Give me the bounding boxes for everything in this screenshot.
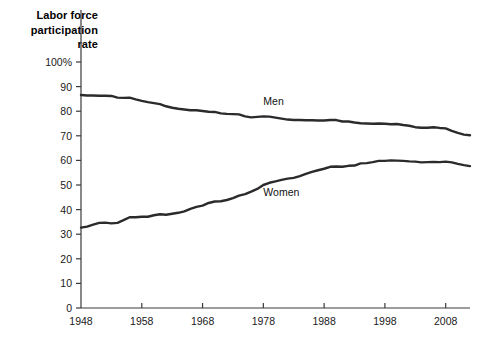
chart-figure: Labor force participation rate 010203040… xyxy=(0,0,489,348)
x-axis-tick-label: 1968 xyxy=(173,316,233,326)
series-label-women: Women xyxy=(263,186,299,198)
x-axis-tick-label: 1988 xyxy=(294,316,354,326)
y-axis-tick-label: 90 xyxy=(28,82,72,92)
x-axis-tick-label: 1978 xyxy=(233,316,293,326)
y-axis-tick-label: 50 xyxy=(28,180,72,190)
x-axis-tick-label: 1948 xyxy=(51,316,111,326)
x-axis-tick-label: 1958 xyxy=(112,316,172,326)
chart-series-group xyxy=(81,95,470,228)
x-axis-tick-label: 1998 xyxy=(355,316,415,326)
y-axis-tick-label: 10 xyxy=(28,278,72,288)
x-axis-tick-label: 2008 xyxy=(416,316,476,326)
chart-canvas xyxy=(0,0,489,348)
y-axis-ticks xyxy=(76,62,81,308)
y-axis-tick-label: 40 xyxy=(28,205,72,215)
chart-axes xyxy=(81,10,470,308)
y-axis-tick-label: 80 xyxy=(28,106,72,116)
y-axis-tick-label: 0 xyxy=(28,303,72,313)
y-axis-tick-label: 70 xyxy=(28,131,72,141)
y-axis-tick-label: 30 xyxy=(28,229,72,239)
y-axis-tick-label: 60 xyxy=(28,155,72,165)
series-label-men: Men xyxy=(263,95,283,107)
y-axis-tick-label: 100% xyxy=(28,57,72,67)
x-axis-ticks xyxy=(142,303,446,308)
y-axis-tick-label: 20 xyxy=(28,254,72,264)
